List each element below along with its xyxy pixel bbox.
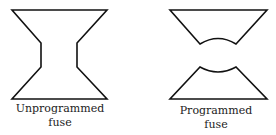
unprogrammed-fuse-shape (12, 10, 107, 99)
programmed-label-line1: Programmed (156, 104, 276, 118)
programmed-fuse-upper-part (170, 10, 267, 44)
unprogrammed-fuse-label: Unprogrammed fuse (0, 102, 120, 130)
unprogrammed-label-line1: Unprogrammed (0, 102, 120, 116)
programmed-label-line2: fuse (156, 118, 276, 132)
programmed-fuse-label: Programmed fuse (156, 104, 276, 132)
programmed-fuse-shape (170, 10, 267, 99)
unprogrammed-label-line2: fuse (0, 116, 120, 130)
programmed-fuse-lower-part (170, 67, 267, 99)
